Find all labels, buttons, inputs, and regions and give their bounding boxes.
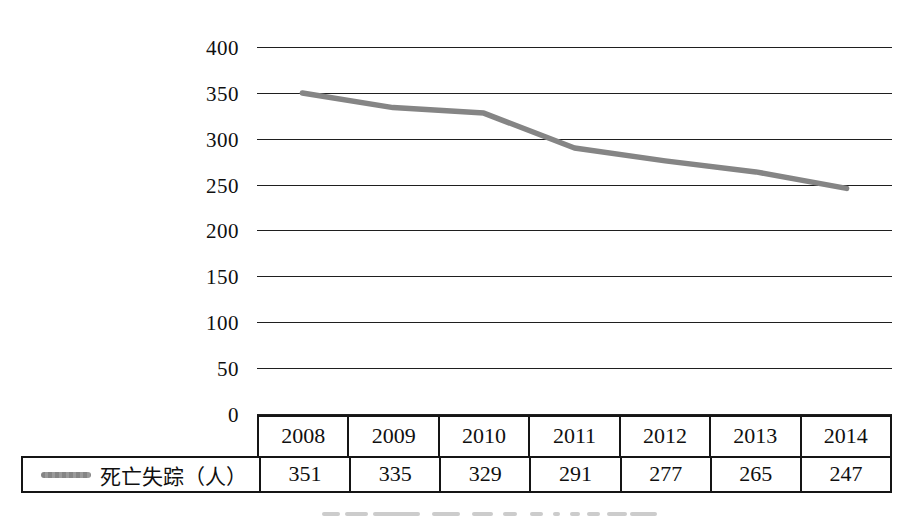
- y-axis-tick-label: 350: [150, 83, 239, 105]
- h-gridline: [257, 93, 892, 94]
- legend-label: 死亡失踪（人）: [100, 460, 247, 490]
- legend-cell: 死亡失踪（人）: [23, 458, 259, 491]
- chart-figure: 400 350 300 250 200 150 100 50 0 2008 20…: [0, 0, 915, 518]
- caption-fragment: [345, 512, 368, 516]
- value-cell: 277: [620, 458, 710, 491]
- h-gridline: [257, 185, 892, 186]
- year-header-cell: 2014: [800, 417, 890, 456]
- y-axis-tick-label: 300: [150, 129, 239, 151]
- value-cell: 329: [439, 458, 529, 491]
- y-axis-tick-label: 150: [150, 266, 239, 288]
- value-cell: 265: [710, 458, 800, 491]
- y-axis-tick-label: 50: [150, 358, 239, 380]
- value-cell: 291: [529, 458, 619, 491]
- h-gridline: [257, 276, 892, 277]
- year-header-cell: 2011: [528, 417, 618, 456]
- caption-fragment: [503, 512, 517, 516]
- year-header-cell: 2009: [347, 417, 437, 456]
- y-axis-tick-label: 100: [150, 312, 239, 334]
- year-header-cell: 2010: [438, 417, 528, 456]
- caption-fragment: [553, 512, 560, 516]
- caption-fragment: [432, 512, 460, 516]
- series-line: [302, 93, 846, 188]
- series-line-legend-swatch-icon: [41, 472, 91, 478]
- caption-fragment: [570, 512, 580, 516]
- h-gridline: [257, 368, 892, 369]
- year-header-cell: 2008: [259, 417, 347, 456]
- value-cell: 351: [259, 458, 349, 491]
- value-cell: 335: [349, 458, 439, 491]
- h-gridline: [257, 47, 892, 48]
- y-axis-tick-label: 400: [150, 37, 239, 59]
- data-table-value-row: 死亡失踪（人） 351 335 329 291 277 265 247: [21, 456, 892, 493]
- y-axis-tick-label: 0: [150, 404, 239, 426]
- caption-fragment: [322, 512, 340, 516]
- caption-fragment: [587, 512, 600, 516]
- year-header-cell: 2012: [619, 417, 709, 456]
- value-cell: 247: [800, 458, 890, 491]
- caption-fragment: [607, 512, 627, 516]
- caption-fragment: [630, 512, 657, 516]
- h-gridline: [257, 322, 892, 323]
- h-gridline: [257, 230, 892, 231]
- h-gridline: [257, 139, 892, 140]
- caption-fragment: [472, 512, 493, 516]
- year-header-cell: 2013: [709, 417, 799, 456]
- y-axis-tick-label: 250: [150, 175, 239, 197]
- caption-fragment: [373, 512, 420, 516]
- caption-fragment: [530, 512, 543, 516]
- data-table-year-row: 2008 2009 2010 2011 2012 2013 2014: [257, 415, 892, 456]
- y-axis-tick-label: 200: [150, 220, 239, 242]
